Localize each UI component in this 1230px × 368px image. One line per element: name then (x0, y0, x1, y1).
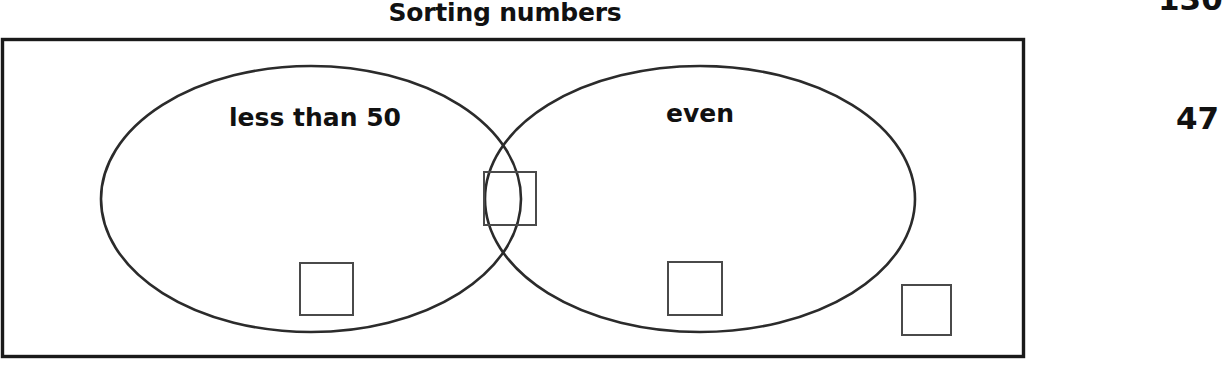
answer-box-right-only[interactable] (667, 261, 723, 316)
margin-number-1: 130 (1158, 0, 1223, 17)
answer-box-left-only[interactable] (299, 262, 354, 316)
answer-box-outside[interactable] (901, 284, 952, 336)
margin-number-2: 47 (1176, 100, 1219, 136)
worksheet-page: Sorting numbers 130 47 less than 50 even (0, 0, 1230, 368)
venn-diagram: less than 50 even (0, 0, 1060, 368)
set-label-even: even (610, 99, 790, 128)
set-label-less-than-50: less than 50 (190, 103, 440, 132)
answer-box-intersection[interactable] (483, 171, 537, 226)
